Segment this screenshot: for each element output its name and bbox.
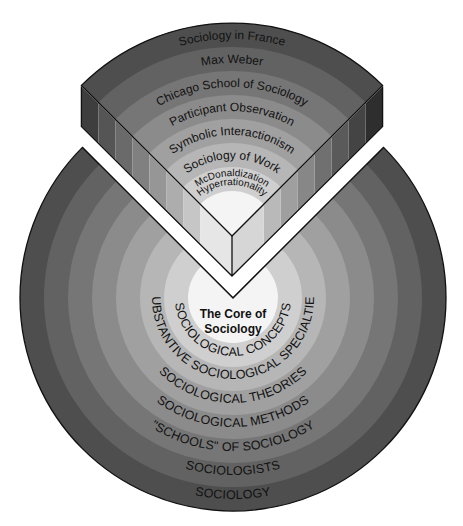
- core-label-line2: Sociology: [204, 322, 262, 336]
- sociology-core-diagram: The Core of Sociology SOCIOLOGICAL CONCE…: [0, 0, 463, 526]
- core-label-line1: The Core of: [200, 307, 268, 321]
